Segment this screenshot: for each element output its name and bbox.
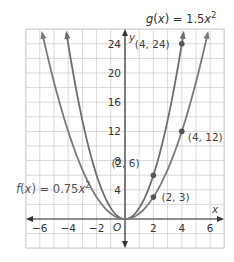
data-point (179, 41, 185, 47)
x-axis-label: x (211, 203, 219, 215)
y-tick-label: 20 (108, 67, 121, 79)
data-point (179, 129, 185, 135)
y-tick-label: 12 (108, 125, 121, 137)
x-tick-label: 6 (207, 222, 214, 234)
curve-arrow (41, 31, 47, 39)
x-tick-label: −2 (89, 222, 104, 234)
y-axis-up-arrow (122, 29, 128, 36)
y-tick-label: 16 (108, 96, 122, 108)
curve-arrow (64, 31, 70, 39)
quadratic-chart: xyO−6−4−22464812162024 (2, 6)(4, 24)(2, … (0, 0, 234, 262)
x-tick-label: −6 (32, 222, 48, 234)
y-tick-label: 24 (108, 38, 122, 50)
y-tick-label: 4 (114, 184, 121, 196)
data-point (151, 194, 157, 200)
curve-arrow (180, 31, 186, 39)
point-label: (2, 3) (161, 191, 189, 203)
f-function-label: f(x) = 0.75x2 (16, 181, 90, 196)
origin-label: O (113, 221, 121, 233)
x-tick-label: −4 (60, 222, 76, 234)
g-function-label: g(x) = 1.5x2 (146, 11, 216, 26)
curve-arrow (204, 31, 210, 39)
point-label: (4, 24) (135, 38, 170, 50)
x-tick-label: 4 (178, 222, 185, 234)
x-axis-right-arrow (217, 216, 224, 222)
data-point (151, 172, 157, 178)
point-label: (2, 6) (111, 157, 139, 169)
point-label: (4, 12) (188, 131, 223, 143)
x-tick-label: 2 (150, 222, 157, 234)
y-axis-down-arrow (122, 241, 128, 248)
